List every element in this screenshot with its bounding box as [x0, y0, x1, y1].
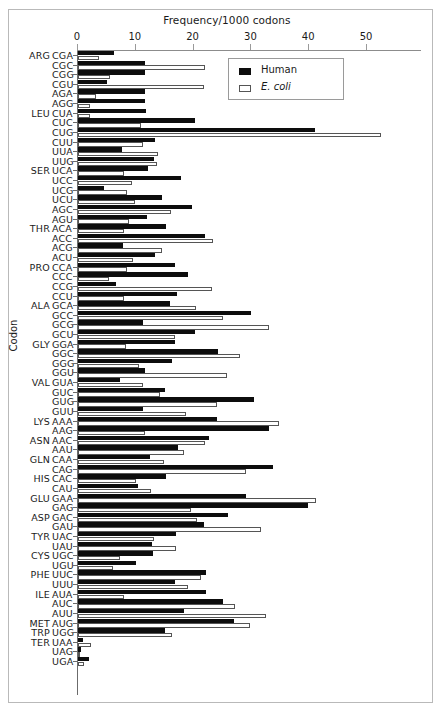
x-tick-label-50: 50: [360, 31, 373, 42]
codon-row-tick: [73, 517, 77, 518]
amino-acid-label-arg: ARG: [8, 50, 50, 61]
codon-row: UGA: [0, 657, 442, 667]
bar-human-ggu: [78, 368, 145, 372]
bar-human-gcu: [78, 330, 195, 334]
codon-row-tick: [73, 498, 77, 499]
bar-ecoli-cua: [78, 114, 90, 118]
bar-ecoli-gua: [78, 383, 143, 387]
bar-human-ggg: [78, 359, 172, 363]
bar-human-uca: [78, 166, 148, 170]
bar-ecoli-uca: [78, 171, 124, 175]
codon-row-tick: [73, 199, 77, 200]
codon-row-tick: [73, 228, 77, 229]
bar-ecoli-acg: [78, 248, 162, 252]
bar-ecoli-cgg: [78, 75, 110, 79]
codon-label-uga: UGA: [52, 656, 73, 667]
bar-ecoli-ccg: [78, 287, 212, 291]
codon-row-tick: [73, 190, 77, 191]
x-tick-label-0: 0: [74, 31, 80, 42]
codon-row-tick: [73, 555, 77, 556]
bar-ecoli-aca: [78, 229, 124, 233]
bar-human-ccg: [78, 282, 116, 286]
amino-acid-label-gln: GLN: [8, 454, 50, 465]
bar-ecoli-aug: [78, 623, 250, 627]
bar-ecoli-ggc: [78, 354, 240, 358]
codon-row-tick: [73, 353, 77, 354]
bar-human-aga: [78, 89, 145, 93]
codon-row-tick: [73, 161, 77, 162]
bar-human-ucu: [78, 195, 162, 199]
bar-ecoli-ucc: [78, 181, 132, 185]
codon-row-tick: [73, 401, 77, 402]
codon-row-tick: [73, 661, 77, 662]
codon-row-tick: [73, 392, 77, 393]
bar-human-uac: [78, 532, 176, 536]
codon-row-tick: [73, 286, 77, 287]
bar-ecoli-cug: [78, 133, 381, 137]
amino-acid-label-ala: ALA: [8, 300, 50, 311]
legend-swatch-human: [239, 68, 251, 75]
codon-row-tick: [73, 296, 77, 297]
bar-ecoli-uug: [78, 162, 157, 166]
legend-label-ecoli: E. coli: [261, 81, 291, 92]
bar-ecoli-aau: [78, 450, 184, 454]
codon-row-tick: [73, 430, 77, 431]
bar-ecoli-cuu: [78, 142, 143, 146]
bar-ecoli-gau: [78, 527, 261, 531]
bar-ecoli-uaa: [78, 643, 91, 647]
codon-row-tick: [73, 440, 77, 441]
codon-row-tick: [73, 305, 77, 306]
codon-row-tick: [73, 84, 77, 85]
codon-row-tick: [73, 93, 77, 94]
bar-human-guc: [78, 388, 165, 392]
amino-acid-label-cys: CYS: [8, 550, 50, 561]
bar-human-cgg: [78, 70, 145, 74]
bar-human-cca: [78, 263, 175, 267]
bar-human-ucg: [78, 186, 104, 190]
codon-row-tick: [73, 363, 77, 364]
bar-human-gga: [78, 340, 175, 344]
legend-swatch-ecoli: [239, 85, 251, 92]
bar-human-cac: [78, 474, 166, 478]
bar-ecoli-ugc: [78, 556, 120, 560]
codon-row-tick: [73, 324, 77, 325]
amino-acid-label-val: VAL: [8, 377, 50, 388]
bar-human-uag: [78, 647, 81, 651]
codon-row-tick: [73, 459, 77, 460]
bar-human-uau: [78, 542, 152, 546]
codon-row-tick: [73, 613, 77, 614]
bar-ecoli-cau: [78, 489, 151, 493]
bar-human-aaa: [78, 417, 217, 421]
codon-row-tick: [73, 267, 77, 268]
codon-row-tick: [73, 382, 77, 383]
bar-ecoli-ugg: [78, 633, 172, 637]
bar-ecoli-aaa: [78, 421, 279, 425]
bar-human-acg: [78, 243, 123, 247]
bar-ecoli-acc: [78, 239, 213, 243]
codon-row-tick: [73, 603, 77, 604]
codon-row-tick: [73, 632, 77, 633]
bar-human-gua: [78, 378, 120, 382]
bar-ecoli-cga: [78, 56, 99, 60]
bar-ecoli-gag: [78, 508, 191, 512]
codon-row-tick: [73, 209, 77, 210]
bar-ecoli-ccu: [78, 296, 124, 300]
bar-ecoli-ccc: [78, 277, 109, 281]
bar-human-auu: [78, 609, 184, 613]
codon-row-tick: [73, 372, 77, 373]
bar-ecoli-aga: [78, 94, 96, 98]
bar-ecoli-ugu: [78, 566, 113, 570]
bar-ecoli-ucu: [78, 200, 135, 204]
codon-row-tick: [73, 122, 77, 123]
codon-row-tick: [73, 334, 77, 335]
bar-ecoli-gaa: [78, 498, 316, 502]
bar-human-ggc: [78, 349, 218, 353]
x-tick-label-10: 10: [128, 31, 141, 42]
amino-acid-label-gly: GLY: [8, 339, 50, 350]
bar-ecoli-aag: [78, 431, 145, 435]
bar-human-agu: [78, 215, 147, 219]
bar-ecoli-cgc: [78, 65, 205, 69]
codon-row-tick: [73, 526, 77, 527]
x-axis-tick-labels: 01020304050: [0, 31, 442, 45]
bar-ecoli-gug: [78, 402, 217, 406]
